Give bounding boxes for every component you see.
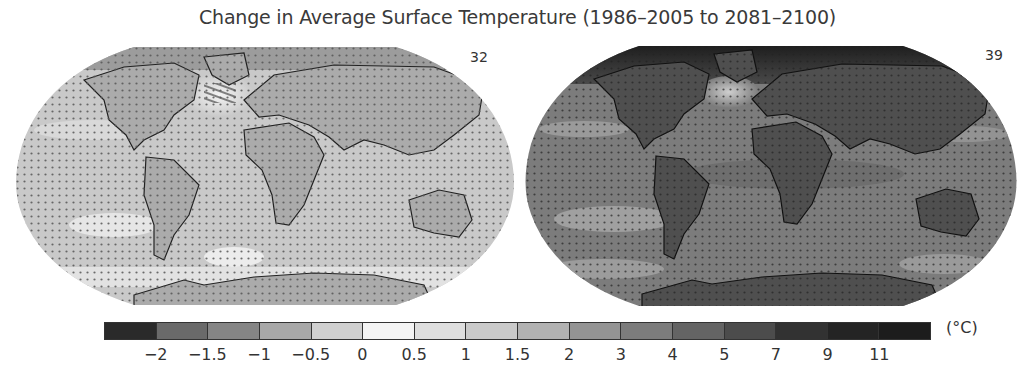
legend-swatch: [157, 323, 209, 339]
legend-swatch: [570, 323, 622, 339]
legend-tick-label: −2: [144, 345, 168, 364]
legend-tick-label: −1: [247, 345, 271, 364]
legend-tick-label: 1.5: [505, 345, 530, 364]
legend-swatch: [828, 323, 880, 339]
legend-tick-label: 5: [719, 345, 729, 364]
legend-tick-label: −0.5: [291, 345, 330, 364]
legend-swatch: [415, 323, 467, 339]
stippling: [524, 44, 1018, 308]
map-panel-low-emissions: [14, 45, 516, 307]
color-scale-legend: [104, 322, 931, 340]
legend-swatch: [105, 323, 157, 339]
legend-tick-label: 0.5: [401, 345, 426, 364]
legend-swatch: [776, 323, 828, 339]
map-panel-high-emissions: [524, 44, 1018, 308]
unit-label: (°C): [946, 318, 978, 337]
legend-tick-label: 9: [823, 345, 833, 364]
model-count-label-high: 39: [985, 47, 1003, 63]
legend-tick-label: 4: [667, 345, 677, 364]
world-map-low-emissions: [14, 45, 516, 307]
legend-tick-label: 7: [771, 345, 781, 364]
legend-swatch: [466, 323, 518, 339]
world-map-high-emissions: [524, 44, 1018, 308]
legend-tick-label: 3: [616, 345, 626, 364]
legend-swatch: [208, 323, 260, 339]
legend-tick-label: 11: [869, 345, 889, 364]
legend-swatch: [312, 323, 364, 339]
legend-swatch: [518, 323, 570, 339]
legend-swatch: [621, 323, 673, 339]
legend-swatch: [260, 323, 312, 339]
figure-title: Change in Average Surface Temperature (1…: [0, 6, 1035, 28]
legend-tick-label: 1: [461, 345, 471, 364]
legend-tick-label: −1.5: [188, 345, 227, 364]
legend-tick-label: 0: [357, 345, 367, 364]
model-count-label-low: 32: [470, 49, 488, 65]
legend-swatch: [673, 323, 725, 339]
legend-swatch: [879, 323, 930, 339]
legend-swatch: [363, 323, 415, 339]
legend-tick-label: 2: [564, 345, 574, 364]
stippling: [14, 45, 516, 307]
legend-swatch: [725, 323, 777, 339]
